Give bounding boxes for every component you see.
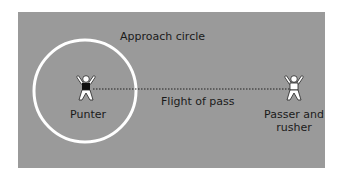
passer-label-line1: Passer and [262, 108, 326, 121]
punter-figure-icon [78, 76, 94, 100]
passer-figure-icon [286, 76, 302, 100]
approach-circle-label: Approach circle [120, 30, 205, 43]
punter-label: Punter [70, 108, 106, 121]
passer-label-line2: rusher [262, 121, 326, 134]
diagram-canvas [0, 0, 339, 177]
flight-of-pass-label: Flight of pass [161, 95, 235, 108]
